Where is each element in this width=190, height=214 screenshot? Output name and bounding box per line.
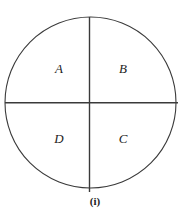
- quadrant-circle-diagram: [0, 0, 190, 214]
- quadrant-label-b: B: [113, 62, 133, 75]
- quadrant-label-d: D: [49, 132, 69, 145]
- quadrant-label-a: A: [49, 62, 69, 75]
- figure-container: A B C D (i): [0, 0, 190, 214]
- quadrant-label-c: C: [113, 132, 133, 145]
- figure-caption: (i): [0, 196, 190, 207]
